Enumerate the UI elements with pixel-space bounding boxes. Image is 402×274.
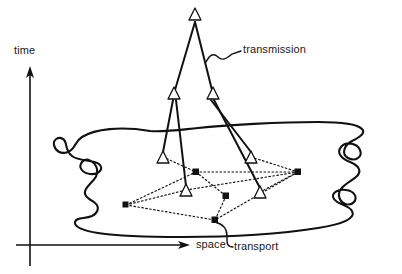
transmission-link — [214, 100, 260, 188]
square-node — [295, 169, 302, 176]
annotation-label-transmission: transmission — [243, 43, 306, 55]
square-node — [123, 202, 129, 208]
transmission-link — [176, 100, 186, 186]
diagram-canvas: time space transmission transport — [0, 0, 402, 274]
space-blob-outline — [54, 122, 363, 237]
triangle-node — [207, 87, 219, 99]
annotation-label-transport: transport — [234, 240, 278, 252]
axis-label-time: time — [14, 44, 35, 56]
triangle-node — [157, 151, 169, 163]
triangle-node — [189, 8, 201, 20]
triangle-node — [180, 184, 192, 196]
square-nodes — [123, 169, 302, 224]
transport-link — [126, 190, 186, 205]
diagram-svg — [0, 0, 402, 274]
transport-link — [126, 205, 215, 220]
axis-time — [26, 66, 34, 266]
transport-link — [260, 172, 298, 192]
triangle-node — [168, 87, 180, 99]
axis-label-space: space — [196, 238, 226, 250]
transmission-link — [163, 100, 173, 152]
triangle-node — [254, 186, 266, 198]
transport-link — [251, 157, 298, 172]
triangle-node — [245, 151, 257, 163]
transmission-leader — [206, 51, 241, 62]
transport-network — [126, 157, 298, 220]
square-node — [223, 193, 230, 200]
transport-link — [163, 157, 196, 172]
square-node — [193, 169, 200, 176]
transmission-link — [175, 22, 195, 90]
axis-space — [16, 241, 190, 249]
